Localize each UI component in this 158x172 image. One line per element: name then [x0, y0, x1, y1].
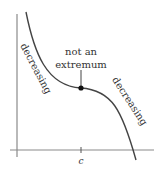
- annotation-line-2: extremum: [55, 59, 107, 70]
- x-tick-label-c: c: [78, 156, 83, 166]
- inflection-point: [78, 85, 83, 90]
- annotation-line-1: not an: [65, 46, 98, 57]
- function-graph: c not an extremum decreasing decreasing: [0, 0, 158, 172]
- right-decreasing-label: decreasing: [110, 75, 150, 128]
